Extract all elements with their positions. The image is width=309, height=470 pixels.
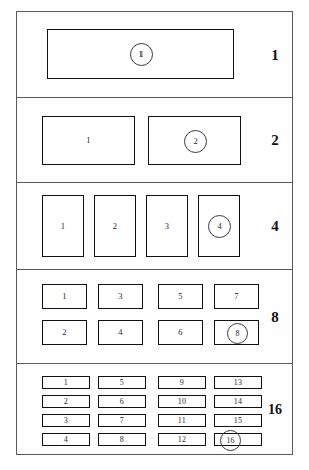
block-label: 12	[178, 436, 187, 444]
band-4-blocks: 1 2 3 4 4	[17, 183, 262, 269]
band-2-count-label: 2	[262, 133, 288, 148]
block-label: 14	[234, 398, 243, 406]
block-16-2[interactable]: 2	[42, 395, 90, 408]
block-16-1[interactable]: 1	[42, 376, 90, 389]
band-16-count-label: 16	[262, 403, 288, 417]
block-label: 1	[64, 379, 68, 387]
block-16-8[interactable]: 8	[98, 433, 146, 446]
block-label: 15	[234, 417, 243, 425]
band-16-blocks: 1 2 3 4 5 6 7 8	[17, 364, 262, 456]
circle-marker-16: 16	[220, 430, 241, 451]
block-label: 4	[64, 436, 68, 444]
circle-marker-2: 2	[184, 130, 207, 153]
block-label: 3	[165, 222, 170, 231]
block-16-6[interactable]: 6	[98, 395, 146, 408]
partition-band-2: 1 2 2 2	[17, 97, 292, 182]
block-16-15[interactable]: 15	[214, 414, 262, 427]
band-8-count-label: 8	[262, 309, 288, 324]
block-label: 5	[178, 292, 183, 301]
circle-marker-8: 8	[227, 323, 248, 344]
block-label: 1	[86, 136, 91, 145]
block-8-1[interactable]: 1	[42, 284, 87, 309]
block-16-12[interactable]: 12	[158, 433, 206, 446]
circle-marker-label: 4	[217, 222, 221, 231]
block-4-1[interactable]: 1	[42, 195, 84, 257]
block-label: 5	[120, 379, 124, 387]
block-16-13[interactable]: 13	[214, 376, 262, 389]
block-8-3[interactable]: 3	[98, 284, 143, 309]
circle-marker-1: 1	[130, 43, 153, 66]
block-label: 8	[120, 436, 124, 444]
block-8-4[interactable]: 4	[98, 320, 143, 345]
circle-marker-4: 4	[208, 215, 231, 238]
band-1-blocks: 1 1	[17, 12, 262, 97]
partition-diagram: 1 1 1 1 2 2 2 1 2	[16, 11, 293, 455]
band-8-blocks: 1 2 3 4 5 6 7 8	[17, 270, 262, 363]
block-16-11[interactable]: 11	[158, 414, 206, 427]
block-8-7[interactable]: 7	[214, 284, 259, 309]
block-16-7[interactable]: 7	[98, 414, 146, 427]
block-4-3[interactable]: 3	[146, 195, 188, 257]
partition-band-1: 1 1 1	[17, 12, 292, 97]
block-label: 9	[180, 379, 184, 387]
block-label: 2	[113, 222, 118, 231]
circle-marker-label: 2	[193, 137, 197, 146]
circle-marker-label: 16	[227, 437, 235, 445]
block-8-2[interactable]: 2	[42, 320, 87, 345]
block-4-2[interactable]: 2	[94, 195, 136, 257]
block-label: 7	[234, 292, 239, 301]
block-label: 1	[62, 292, 67, 301]
block-16-3[interactable]: 3	[42, 414, 90, 427]
band-2-blocks: 1 2 2	[17, 98, 262, 182]
block-16-4[interactable]: 4	[42, 433, 90, 446]
partition-band-16: 1 2 3 4 5 6 7 8	[17, 363, 292, 456]
band-1-count-label: 1	[262, 47, 288, 62]
band-4-count-label: 4	[262, 219, 288, 234]
block-label: 10	[178, 398, 187, 406]
block-label: 2	[64, 398, 68, 406]
block-label: 2	[62, 328, 67, 337]
block-label: 1	[61, 222, 66, 231]
block-16-14[interactable]: 14	[214, 395, 262, 408]
block-label: 13	[234, 379, 243, 387]
partition-band-4: 1 2 3 4 4 4	[17, 182, 292, 269]
partition-band-8: 1 2 3 4 5 6 7 8	[17, 269, 292, 363]
block-label: 3	[118, 292, 123, 301]
block-label: 4	[118, 328, 123, 337]
block-label: 3	[64, 417, 68, 425]
circle-marker-label: 8	[236, 330, 240, 338]
block-label: 7	[120, 417, 124, 425]
block-8-6[interactable]: 6	[158, 320, 203, 345]
block-label: 6	[178, 328, 183, 337]
block-2-1[interactable]: 1	[42, 116, 135, 165]
block-label: 11	[178, 417, 186, 425]
block-16-5[interactable]: 5	[98, 376, 146, 389]
circle-marker-label: 1	[139, 50, 143, 59]
block-16-9[interactable]: 9	[158, 376, 206, 389]
block-label: 6	[120, 398, 124, 406]
block-8-5[interactable]: 5	[158, 284, 203, 309]
block-16-10[interactable]: 10	[158, 395, 206, 408]
